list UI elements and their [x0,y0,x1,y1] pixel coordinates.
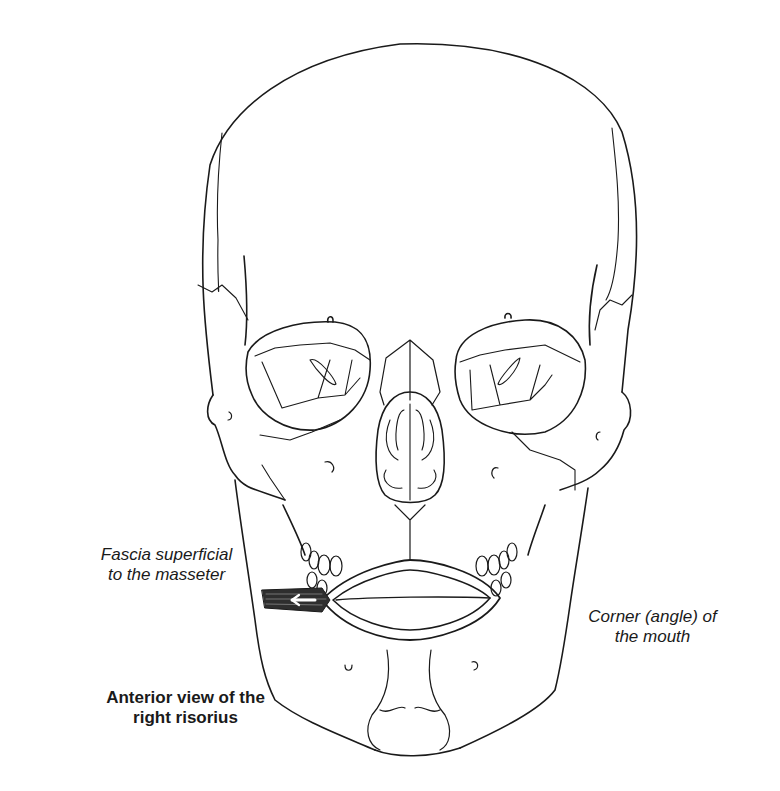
zygomatic-right [560,392,631,490]
coronal-suture-left [217,133,222,291]
nasal-bone [380,340,440,405]
chin [375,748,460,756]
infraorbital-foramen-right [492,468,498,478]
nasal-concha-right [416,410,436,488]
temporal-line-left [244,256,247,345]
orbit-left-inner [255,343,370,408]
label-fascia-superficial: Fascia superficial to the masseter [44,545,289,586]
caption-line1: Anterior view of the [58,688,313,708]
orbit-right-inner [460,345,580,410]
mental-protuberance [368,650,450,750]
caption-line2: right risorius [58,708,313,728]
figure-canvas: Fascia superficial to the masseter Corne… [0,0,780,791]
label-corner-line1: Corner (angle) of [560,607,745,627]
orbit-left [246,322,370,430]
optic-canal-right [498,358,520,385]
orbit-right [455,320,585,434]
foramen-left [228,412,232,420]
mental-foramen-left [345,665,352,670]
temporal-line-right [589,265,597,345]
teeth-right [476,543,517,596]
skull-illustration [0,0,780,791]
pterion-right [595,295,632,330]
anterior-nasal-spine [395,505,425,560]
coronal-suture-right [606,128,619,300]
mental-ridge [380,707,440,711]
lip-outer [322,560,500,640]
alveolar-right [528,505,545,555]
figure-caption: Anterior view of the right risorius [58,688,313,729]
cranium-outline [203,44,637,395]
label-corner-of-mouth: Corner (angle) of the mouth [560,607,745,648]
pterion-left [198,285,248,320]
label-fascia-line1: Fascia superficial [44,545,289,565]
lip-inner [333,570,490,630]
label-fascia-line2: to the masseter [44,565,289,585]
zygomatic-suture-right [512,432,575,490]
zygomatic-left [208,395,285,500]
mental-foramen-right [472,662,478,670]
foramen-right [596,432,600,440]
supraorbital-notch-right [505,314,511,319]
zygomatic-suture-left [260,420,340,500]
nasal-concha-left [384,410,404,488]
infraorbital-foramen-left [325,462,334,472]
mouth-line [336,597,490,600]
label-corner-line2: the mouth [560,627,745,647]
